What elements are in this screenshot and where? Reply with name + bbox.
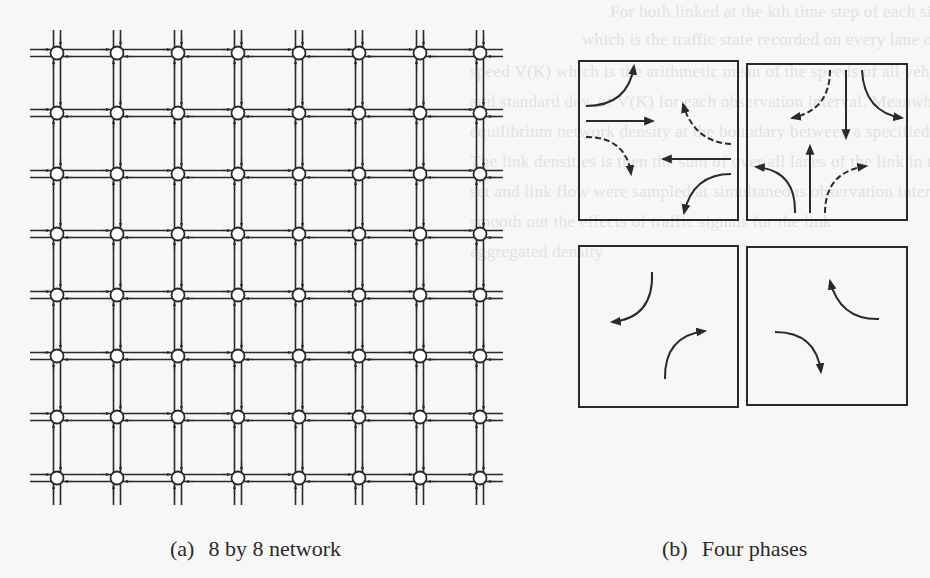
intersection-node bbox=[293, 472, 306, 485]
intersection-node bbox=[293, 228, 306, 241]
intersection-node bbox=[474, 47, 487, 60]
intersection-node bbox=[474, 228, 487, 241]
phase-box-1 bbox=[579, 61, 738, 220]
phase-box-2 bbox=[747, 64, 907, 220]
intersection-node bbox=[353, 107, 366, 120]
intersection-node bbox=[414, 168, 427, 181]
intersection-node bbox=[353, 411, 366, 424]
intersection-node bbox=[51, 168, 64, 181]
intersection-node bbox=[111, 289, 124, 302]
intersection-node bbox=[353, 168, 366, 181]
intersection-node bbox=[232, 350, 245, 363]
intersection-node bbox=[51, 228, 64, 241]
caption-b-tag: (b) bbox=[662, 536, 688, 561]
intersection-node bbox=[172, 350, 185, 363]
intersection-node bbox=[232, 289, 245, 302]
intersection-node bbox=[414, 472, 427, 485]
caption-a-tag: (a) bbox=[170, 536, 194, 561]
intersection-node bbox=[172, 228, 185, 241]
intersection-node bbox=[51, 47, 64, 60]
intersection-node bbox=[293, 47, 306, 60]
intersection-node bbox=[474, 107, 487, 120]
intersection-node bbox=[111, 228, 124, 241]
intersection-node bbox=[474, 168, 487, 181]
intersection-node bbox=[172, 168, 185, 181]
intersection-node bbox=[353, 472, 366, 485]
intersection-node bbox=[111, 350, 124, 363]
caption-b: (b)Four phases bbox=[662, 536, 807, 562]
intersection-node bbox=[172, 289, 185, 302]
intersection-node bbox=[172, 107, 185, 120]
intersection-node bbox=[232, 47, 245, 60]
grid-network bbox=[30, 30, 503, 505]
phase-box-3 bbox=[579, 246, 738, 407]
intersection-node bbox=[414, 47, 427, 60]
intersection-node bbox=[111, 168, 124, 181]
intersection-node bbox=[474, 411, 487, 424]
intersection-node bbox=[353, 350, 366, 363]
intersection-node bbox=[293, 107, 306, 120]
intersection-node bbox=[172, 47, 185, 60]
intersection-node bbox=[293, 350, 306, 363]
intersection-node bbox=[232, 411, 245, 424]
intersection-node bbox=[232, 472, 245, 485]
intersection-node bbox=[474, 289, 487, 302]
intersection-node bbox=[111, 47, 124, 60]
caption-a-text: 8 by 8 network bbox=[208, 536, 341, 561]
intersection-node bbox=[353, 228, 366, 241]
intersection-node bbox=[111, 472, 124, 485]
intersection-node bbox=[414, 350, 427, 363]
intersection-node bbox=[232, 168, 245, 181]
intersection-node bbox=[353, 47, 366, 60]
intersection-node bbox=[51, 411, 64, 424]
figure-canvas bbox=[0, 0, 930, 578]
intersection-node bbox=[172, 472, 185, 485]
intersection-node bbox=[474, 472, 487, 485]
intersection-node bbox=[414, 289, 427, 302]
caption-b-text: Four phases bbox=[702, 536, 808, 561]
intersection-node bbox=[414, 411, 427, 424]
intersection-node bbox=[293, 168, 306, 181]
intersection-node bbox=[414, 107, 427, 120]
intersection-node bbox=[172, 411, 185, 424]
intersection-node bbox=[51, 289, 64, 302]
intersection-node bbox=[51, 350, 64, 363]
intersection-node bbox=[474, 350, 487, 363]
intersection-node bbox=[51, 107, 64, 120]
intersection-node bbox=[111, 107, 124, 120]
intersection-node bbox=[293, 289, 306, 302]
intersection-node bbox=[414, 228, 427, 241]
intersection-node bbox=[353, 289, 366, 302]
intersection-node bbox=[51, 472, 64, 485]
caption-a: (a)8 by 8 network bbox=[170, 536, 341, 562]
intersection-node bbox=[111, 411, 124, 424]
intersection-node bbox=[293, 411, 306, 424]
phase-box-4 bbox=[747, 247, 907, 405]
intersection-node bbox=[232, 107, 245, 120]
intersection-node bbox=[232, 228, 245, 241]
